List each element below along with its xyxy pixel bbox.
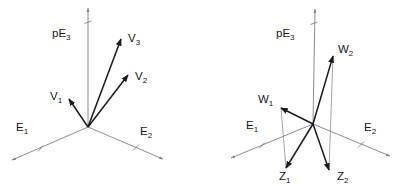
axes-group-left xyxy=(12,8,163,160)
vector-V1-line xyxy=(69,99,88,127)
axis-E2-tick xyxy=(133,145,139,151)
axes-group-right xyxy=(231,9,390,158)
drop-lines-group-right xyxy=(281,56,333,170)
labels-group-left: pE3 E1 E2 V1 V2 V3 xyxy=(16,27,153,140)
axis-E1-line xyxy=(231,124,313,158)
label-E1: E1 xyxy=(246,119,259,134)
label-E2: E2 xyxy=(364,121,377,136)
vector-Z1-line xyxy=(286,124,313,168)
label-W1: W1 xyxy=(258,93,274,108)
label-V3: V3 xyxy=(128,32,141,47)
left-panel: pE3 E1 E2 V1 V2 V3 xyxy=(0,0,198,195)
axis-E2-line xyxy=(313,124,390,156)
vector-W1-line xyxy=(281,108,313,124)
vector-diagram-figure: pE3 E1 E2 V1 V2 V3 xyxy=(0,0,396,195)
label-E1: E1 xyxy=(16,121,29,136)
label-pE3: pE3 xyxy=(52,27,71,42)
label-pE3: pE3 xyxy=(276,27,295,42)
axis-pE3-tick xyxy=(311,22,318,25)
label-Z1: Z1 xyxy=(279,170,291,185)
labels-group-right: pE3 E1 E2 W1 W2 Z1 Z2 xyxy=(246,27,377,185)
label-V1: V1 xyxy=(50,90,63,105)
label-V2: V2 xyxy=(135,70,148,85)
vector-Z2-line xyxy=(313,124,329,170)
label-Z2: Z2 xyxy=(337,170,349,185)
axis-pE3-line xyxy=(313,9,315,124)
vector-V2-line xyxy=(88,75,128,127)
drop-line-W1-Z1 xyxy=(281,108,286,168)
label-W2: W2 xyxy=(338,43,354,58)
label-E2: E2 xyxy=(140,125,153,140)
vectors-group-left xyxy=(69,39,128,127)
right-panel: pE3 E1 E2 W1 W2 Z1 Z2 xyxy=(198,0,396,195)
vector-V3-line xyxy=(88,39,121,127)
axis-E1-tick xyxy=(259,143,265,149)
vectors-group-right xyxy=(281,56,333,170)
vector-W2-line xyxy=(313,56,333,124)
drop-line-W2-Z2 xyxy=(329,56,333,170)
